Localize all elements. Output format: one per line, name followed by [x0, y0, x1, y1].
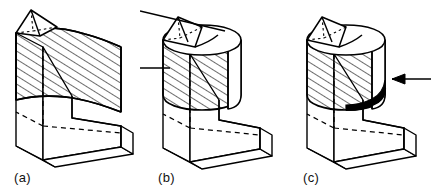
caption-a: (a): [14, 170, 31, 185]
cylinder-top-b: [163, 17, 241, 55]
caption-b: (b): [158, 170, 175, 185]
cylinder-top-c: [307, 17, 385, 55]
figure-root: (a) (b) (c): [0, 0, 431, 196]
panel-a: [0, 0, 145, 172]
pointer-arrow-c: [392, 74, 431, 84]
caption-c: (c): [303, 170, 319, 185]
panel-c: [288, 0, 431, 172]
panel-b: [140, 0, 290, 172]
